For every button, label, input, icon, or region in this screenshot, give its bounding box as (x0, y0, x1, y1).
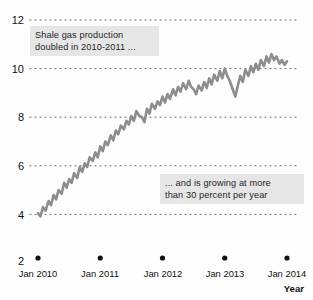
annotation-shale-gas-doubled: Shale gas production doubled in 2010-201… (30, 26, 159, 56)
y-tick-label-2: 2 (2, 255, 24, 267)
x-tick-label-jan-2010: Jan 2010 (7, 268, 69, 279)
x-tick-marks (35, 255, 289, 260)
y-tick-label-12: 12 (2, 14, 24, 26)
y-tick-label-10: 10 (2, 63, 24, 75)
x-tick-label-jan-2014: Jan 2014 (256, 268, 313, 279)
annotation-growth-rate: ... and is growing at more than 30 perce… (160, 174, 304, 204)
y-tick-label-6: 6 (2, 160, 24, 172)
x-tick-label-jan-2011: Jan 2011 (69, 268, 131, 279)
x-tick-label-jan-2012: Jan 2012 (132, 268, 194, 279)
chart-container: 12 10 8 6 4 2 Jan 2010 Jan 2011 Jan 2012… (0, 0, 313, 300)
x-axis-title: Year (284, 283, 304, 294)
x-tick-label-jan-2013: Jan 2013 (194, 268, 256, 279)
y-tick-label-8: 8 (2, 111, 24, 123)
y-tick-label-4: 4 (2, 209, 24, 221)
